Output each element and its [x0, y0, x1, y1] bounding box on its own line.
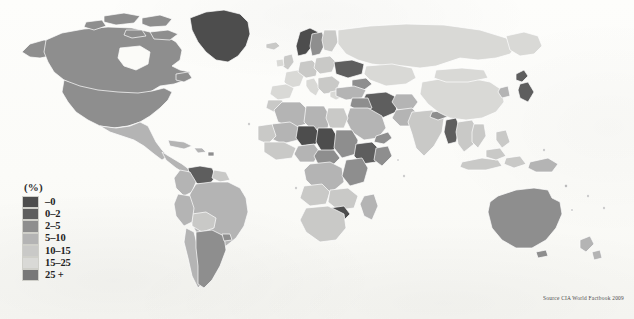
region-argentina [196, 230, 226, 288]
region-caribbean-islands [208, 152, 214, 156]
region-mongolia [434, 68, 488, 82]
legend-label: 10–15 [45, 246, 71, 257]
region-atlantic-island [295, 187, 297, 189]
region-poland [314, 56, 336, 74]
legend-swatch [22, 269, 39, 281]
region-papua-new-guinea [528, 158, 558, 172]
legend-item: 2–5 [22, 220, 98, 232]
region-australia [536, 250, 548, 258]
region-japan [518, 82, 534, 102]
legend-item: –0 [22, 196, 98, 208]
region-vietnam [472, 124, 486, 148]
region-indian-ocean-island [397, 159, 399, 161]
region-russia [338, 24, 516, 68]
region-pacific-island [587, 195, 589, 197]
legend-swatch [22, 257, 39, 269]
region-united-kingdom [282, 54, 294, 70]
region-pacific-island [571, 209, 573, 211]
region-indonesia [486, 148, 506, 160]
legend-title: (%) [24, 182, 98, 193]
region-kenya [342, 158, 368, 186]
region-new-zealand [580, 236, 594, 252]
legend-label: –0 [45, 197, 55, 208]
legend-item: 10–15 [22, 245, 98, 257]
legend-swatch [22, 233, 39, 245]
legend-label: 15–25 [45, 258, 71, 269]
region-atlantic-island [248, 123, 250, 125]
region-central-america [162, 152, 190, 174]
legend-item: 0–2 [22, 208, 98, 220]
source-credit: Source CIA World Factbook 2009 [543, 294, 624, 301]
legend-label: 25 + [45, 270, 64, 281]
legend-label: 5–10 [45, 233, 66, 244]
region-canada [104, 13, 140, 25]
region-finland [322, 30, 338, 52]
region-west-africa [258, 124, 276, 144]
region-caribbean-islands [194, 148, 206, 153]
region-guyanas [212, 170, 230, 182]
region-japan [516, 70, 528, 82]
region-peru [174, 194, 194, 226]
legend-label: 0–2 [45, 209, 60, 220]
region-angola [300, 184, 330, 206]
region-afghanistan [392, 94, 418, 110]
map-figure: (%) –0 0–2 2–5 5–10 10–15 [0, 0, 634, 319]
region-uruguay [222, 234, 232, 241]
legend-swatch [22, 208, 39, 220]
region-philippines [496, 130, 510, 148]
region-canada [142, 15, 172, 27]
region-pacific-island [565, 185, 568, 188]
region-cuba [168, 140, 192, 149]
region-mexico [100, 122, 168, 160]
region-indian-ocean-island [403, 175, 405, 177]
region-guinea-coast [264, 142, 296, 160]
region-greenland [190, 10, 250, 62]
legend-label: 2–5 [45, 221, 60, 232]
region-egypt [326, 108, 348, 128]
legend-item: 15–25 [22, 257, 98, 269]
region-south-africa [300, 206, 346, 242]
region-kazakhstan [364, 64, 416, 86]
legend: (%) –0 0–2 2–5 5–10 10–15 [22, 182, 98, 281]
region-somalia [374, 146, 392, 166]
region-pacific-island [543, 149, 545, 151]
legend-item: 5–10 [22, 233, 98, 245]
region-new-zealand [592, 250, 602, 260]
region-canada [150, 30, 178, 40]
legend-swatch [22, 245, 39, 257]
region-pacific-island [603, 207, 605, 209]
region-spain [270, 84, 294, 100]
legend-entries: –0 0–2 2–5 5–10 10–15 15–25 [22, 196, 98, 281]
region-australia [488, 188, 562, 248]
region-ukraine [334, 60, 364, 78]
legend-swatch [22, 220, 39, 232]
legend-swatch [22, 196, 39, 208]
region-madagascar [360, 194, 378, 220]
region-iceland [266, 42, 280, 50]
region-indonesia [504, 156, 526, 168]
legend-item: 25 + [22, 269, 98, 281]
region-ireland [276, 59, 284, 67]
